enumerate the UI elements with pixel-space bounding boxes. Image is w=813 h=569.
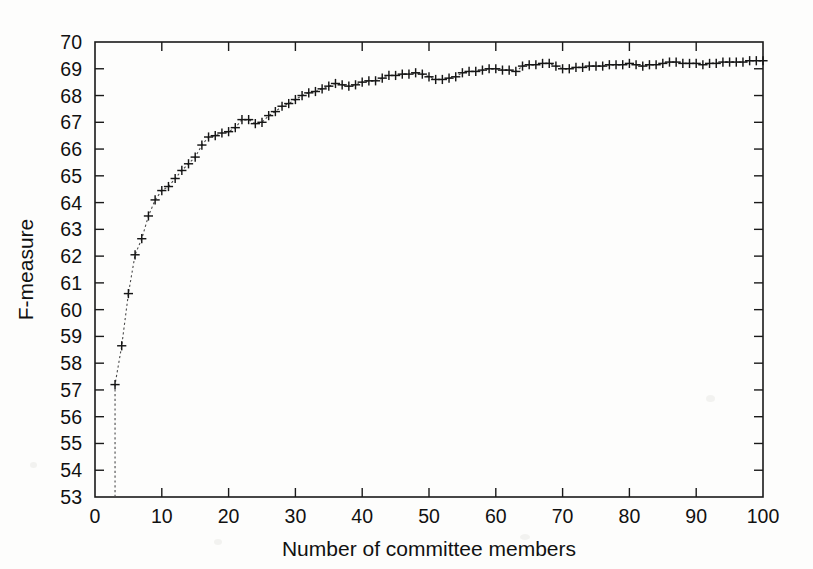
x-tick-label: 70 (552, 505, 574, 527)
y-tick-label: 65 (60, 165, 82, 187)
y-tick-label: 53 (60, 486, 82, 508)
x-tick-label: 80 (619, 505, 641, 527)
y-tick-label: 54 (60, 459, 82, 481)
y-tick-label: 69 (60, 58, 82, 80)
y-axis-title: F-measure (14, 219, 37, 321)
y-tick-label: 57 (60, 379, 82, 401)
y-tick-label: 66 (60, 138, 82, 160)
x-tick-label: 50 (418, 505, 440, 527)
x-tick-label: 10 (151, 505, 173, 527)
y-tick-label: 62 (60, 245, 82, 267)
x-tick-label: 0 (90, 505, 101, 527)
x-tick-label: 60 (485, 505, 507, 527)
y-tick-label: 59 (60, 325, 82, 347)
x-tick-label: 20 (218, 505, 240, 527)
y-tick-label: 56 (60, 406, 82, 428)
figure-background (0, 0, 813, 569)
y-tick-label: 55 (60, 432, 82, 454)
x-tick-label: 30 (285, 505, 307, 527)
x-tick-label: 100 (747, 505, 780, 527)
figure-container: 535455565758596061626364656667686970 010… (0, 0, 813, 569)
chart-canvas: 535455565758596061626364656667686970 010… (0, 0, 813, 569)
y-tick-label: 70 (60, 31, 82, 53)
x-tick-label: 90 (685, 505, 707, 527)
x-axis-title: Number of committee members (282, 537, 576, 560)
y-tick-label: 58 (60, 352, 82, 374)
y-tick-label: 67 (60, 111, 82, 133)
y-tick-label: 61 (60, 272, 82, 294)
y-tick-label: 63 (60, 218, 82, 240)
y-tick-label: 68 (60, 85, 82, 107)
x-tick-label: 40 (351, 505, 373, 527)
y-tick-label: 64 (60, 192, 82, 214)
y-tick-label: 60 (60, 299, 82, 321)
